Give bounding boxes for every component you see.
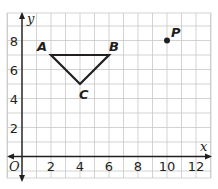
origin-label: O <box>9 159 20 174</box>
y-axis-down-arrow-icon <box>19 175 25 182</box>
y-axis-label: y <box>26 11 35 26</box>
coordinate-plane: y x O 24681012 2468 A B C P <box>0 0 218 189</box>
vertex-label-a: A <box>36 39 47 54</box>
y-tick-labels: 2468 <box>10 34 18 136</box>
y-tick-label: 2 <box>10 121 18 136</box>
y-tick-label: 4 <box>10 92 18 107</box>
point-p-dot-icon <box>164 38 170 44</box>
x-axis-label: x <box>200 139 208 154</box>
x-tick-label: 10 <box>159 159 176 174</box>
y-tick-label: 6 <box>10 63 18 78</box>
vertex-label-b: B <box>109 39 119 54</box>
y-tick-label: 8 <box>10 34 18 49</box>
vertex-label-c: C <box>79 87 89 102</box>
x-tick-label: 4 <box>76 159 84 174</box>
point-label-p: P <box>171 25 181 40</box>
x-tick-label: 8 <box>134 159 142 174</box>
x-tick-label: 2 <box>47 159 55 174</box>
x-tick-label: 6 <box>105 159 113 174</box>
x-tick-labels: 24681012 <box>47 159 204 174</box>
x-tick-label: 12 <box>188 159 205 174</box>
